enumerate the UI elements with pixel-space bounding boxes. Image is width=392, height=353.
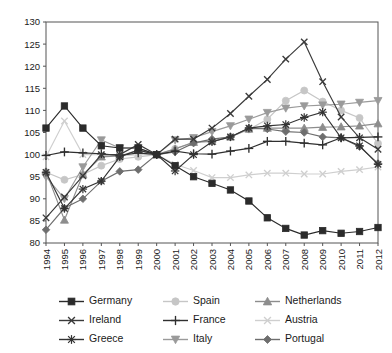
x-axis-tick-label: 2012 bbox=[373, 249, 384, 270]
legend-marker-icon bbox=[254, 333, 281, 346]
data-point-marker bbox=[67, 335, 76, 344]
legend-swatch-greece-icon bbox=[58, 332, 85, 345]
data-point-marker bbox=[61, 103, 67, 109]
data-point-marker bbox=[135, 145, 141, 151]
data-point-marker bbox=[226, 133, 234, 141]
legend-item-netherlands[interactable]: Netherlands bbox=[254, 291, 364, 310]
chart-legend: GermanySpainNetherlandsIrelandFranceAust… bbox=[58, 291, 388, 348]
data-point-marker bbox=[301, 87, 308, 94]
x-axis-tick-label: 1997 bbox=[96, 249, 107, 270]
data-point-marker bbox=[337, 134, 345, 142]
data-point-marker bbox=[61, 176, 68, 183]
legend-item-ireland[interactable]: Ireland bbox=[58, 310, 162, 329]
data-point-marker bbox=[209, 180, 215, 186]
data-point-marker bbox=[171, 316, 180, 325]
data-point-marker bbox=[264, 215, 270, 221]
legend-label: Greece bbox=[89, 332, 123, 345]
legend-label: Ireland bbox=[89, 313, 121, 326]
x-axis-tick-label: 1995 bbox=[59, 249, 70, 270]
legend-label: Spain bbox=[193, 294, 220, 307]
y-axis-tick-label: 80 bbox=[29, 237, 40, 248]
data-point-marker bbox=[319, 227, 325, 233]
x-axis-tick-label: 1998 bbox=[114, 249, 125, 270]
data-point-marker bbox=[338, 230, 344, 236]
legend-label: France bbox=[193, 313, 226, 326]
legend-swatch-germany-icon bbox=[58, 294, 85, 307]
legend-label: Austria bbox=[285, 313, 318, 326]
x-axis-tick-label: 1994 bbox=[41, 249, 52, 270]
legend-marker-icon bbox=[254, 295, 281, 308]
legend-swatch-portugal-icon bbox=[254, 332, 281, 345]
data-point-marker bbox=[300, 113, 308, 121]
data-point-marker bbox=[246, 198, 252, 204]
legend-swatch-italy-icon bbox=[162, 332, 189, 345]
y-axis-tick-label: 95 bbox=[29, 171, 40, 182]
x-axis-tick-label: 2011 bbox=[354, 249, 365, 269]
data-point-marker bbox=[282, 120, 290, 128]
data-point-marker bbox=[283, 225, 289, 231]
legend-marker-icon bbox=[162, 295, 189, 308]
data-point-marker bbox=[264, 336, 272, 344]
legend-swatch-france-icon bbox=[162, 313, 189, 326]
y-axis-tick-label: 100 bbox=[24, 149, 40, 160]
data-point-marker bbox=[97, 177, 105, 185]
data-point-marker bbox=[98, 143, 104, 149]
x-axis-tick-label: 2009 bbox=[317, 249, 328, 270]
data-point-marker bbox=[208, 138, 216, 146]
y-axis-tick-label: 130 bbox=[24, 16, 40, 27]
legend-label: Portugal bbox=[285, 332, 324, 345]
data-point-marker bbox=[189, 150, 197, 158]
legend-marker-icon bbox=[162, 314, 189, 327]
y-axis-tick-label: 85 bbox=[29, 215, 40, 226]
y-axis-tick-label: 125 bbox=[24, 39, 40, 50]
y-axis-tick-label: 120 bbox=[24, 61, 40, 72]
x-axis-tick-label: 2008 bbox=[299, 249, 310, 270]
legend-label: Germany bbox=[89, 294, 132, 307]
legend-item-greece[interactable]: Greece bbox=[58, 329, 162, 348]
x-axis-tick-label: 1999 bbox=[133, 249, 144, 270]
legend-item-portugal[interactable]: Portugal bbox=[254, 329, 364, 348]
legend-item-austria[interactable]: Austria bbox=[254, 310, 364, 329]
x-axis-tick-label: 2004 bbox=[225, 249, 236, 270]
data-point-marker bbox=[153, 151, 159, 157]
legend-swatch-ireland-icon bbox=[58, 313, 85, 326]
data-point-marker bbox=[282, 97, 289, 104]
legend-marker-icon bbox=[58, 333, 85, 346]
data-point-marker bbox=[355, 142, 363, 150]
x-axis-tick-label: 2000 bbox=[151, 249, 162, 270]
data-point-marker bbox=[356, 228, 362, 234]
legend-item-italy[interactable]: Italy bbox=[162, 329, 254, 348]
legend-item-germany[interactable]: Germany bbox=[58, 291, 162, 310]
x-axis-tick-label: 2010 bbox=[336, 249, 347, 270]
x-axis-tick-label: 2005 bbox=[243, 249, 254, 270]
data-point-marker bbox=[227, 187, 233, 193]
data-point-marker bbox=[43, 125, 49, 131]
y-axis-tick-label: 115 bbox=[25, 83, 40, 94]
legend-swatch-spain-icon bbox=[162, 294, 189, 307]
line-chart: 1301251201151101051009590858019941995199… bbox=[0, 0, 392, 353]
data-point-marker bbox=[318, 108, 326, 116]
data-point-marker bbox=[375, 224, 381, 230]
data-point-marker bbox=[374, 160, 382, 168]
legend-item-spain[interactable]: Spain bbox=[162, 291, 254, 310]
data-point-marker bbox=[80, 125, 86, 131]
x-axis-tick-label: 2007 bbox=[280, 249, 291, 270]
data-point-marker bbox=[356, 114, 363, 121]
data-point-marker bbox=[60, 204, 68, 212]
legend-marker-icon bbox=[58, 295, 85, 308]
legend-marker-icon bbox=[162, 333, 189, 346]
data-point-marker bbox=[190, 174, 196, 180]
y-axis-tick-label: 105 bbox=[24, 127, 40, 138]
data-point-marker bbox=[301, 232, 307, 238]
legend-item-france[interactable]: France bbox=[162, 310, 254, 329]
data-point-marker bbox=[263, 122, 271, 130]
data-point-marker bbox=[98, 162, 105, 169]
data-point-marker bbox=[117, 145, 123, 151]
legend-swatch-austria-icon bbox=[254, 313, 281, 326]
legend-marker-icon bbox=[58, 314, 85, 327]
x-axis-tick-label: 2006 bbox=[262, 249, 273, 270]
x-axis-tick-label: 2002 bbox=[188, 249, 199, 270]
legend-label: Netherlands bbox=[285, 294, 342, 307]
legend-label: Italy bbox=[193, 332, 212, 345]
y-axis-tick-label: 90 bbox=[29, 193, 40, 204]
